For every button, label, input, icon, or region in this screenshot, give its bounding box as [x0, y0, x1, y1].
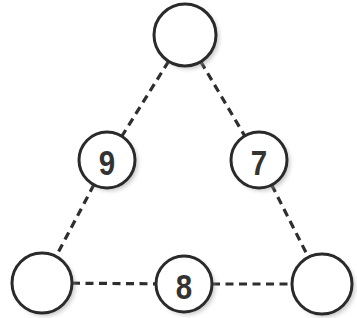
- node-right-mid: 7: [231, 132, 290, 191]
- node-circle: [12, 253, 72, 313]
- node-label: 9: [99, 142, 115, 182]
- dashed-edge-top-to-right-mid: [201, 62, 245, 136]
- node-top: [154, 4, 219, 69]
- node-bottom-mid: 8: [156, 256, 215, 315]
- dashed-edge-left-mid-to-bottom-left: [56, 185, 94, 257]
- node-bottom-left: [12, 253, 75, 316]
- node-circle: [154, 4, 216, 66]
- node-label: 8: [176, 266, 192, 306]
- node-label: 7: [251, 142, 267, 182]
- node-bottom-right: [292, 254, 355, 317]
- node-left-mid: 9: [79, 132, 138, 191]
- dashed-edge-bottom-left-to-bottom-mid: [72, 283, 156, 284]
- dashed-edge-top-to-left-mid: [122, 61, 169, 136]
- triangle-diagram: 978: [0, 0, 357, 318]
- dashed-edge-right-mid-to-bottom-right: [272, 185, 309, 257]
- node-circle: [292, 254, 352, 314]
- nodes-group: 978: [12, 4, 355, 317]
